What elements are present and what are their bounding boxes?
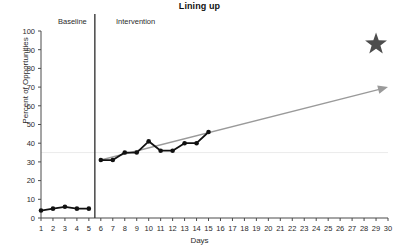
chart-svg: 0102030405060708090100 12345678910111213…	[0, 0, 399, 251]
svg-text:26: 26	[336, 224, 344, 233]
svg-text:3: 3	[63, 224, 67, 233]
data-series-group	[39, 130, 211, 213]
svg-text:0: 0	[31, 214, 35, 223]
svg-text:70: 70	[27, 83, 35, 92]
goal-star-icon	[365, 33, 387, 54]
svg-text:17: 17	[228, 224, 236, 233]
svg-text:50: 50	[27, 120, 35, 129]
y-axis-ticks: 0102030405060708090100	[22, 27, 41, 223]
svg-text:80: 80	[27, 64, 35, 73]
chart-container: Lining up Percent of Opportunities Days …	[0, 0, 399, 251]
svg-text:12: 12	[168, 224, 176, 233]
svg-text:100: 100	[22, 27, 35, 36]
svg-text:23: 23	[300, 224, 308, 233]
x-axis-ticks: 1234567891011121314151617181920212223242…	[39, 218, 392, 233]
svg-text:5: 5	[87, 224, 91, 233]
svg-text:18: 18	[240, 224, 248, 233]
svg-text:30: 30	[384, 224, 392, 233]
axes	[41, 31, 388, 218]
svg-text:15: 15	[204, 224, 212, 233]
svg-text:40: 40	[27, 139, 35, 148]
svg-text:20: 20	[27, 176, 35, 185]
svg-text:4: 4	[75, 224, 79, 233]
svg-text:13: 13	[180, 224, 188, 233]
svg-text:10: 10	[27, 195, 35, 204]
svg-text:2: 2	[51, 224, 55, 233]
svg-text:24: 24	[312, 224, 320, 233]
svg-text:1: 1	[39, 224, 43, 233]
svg-text:20: 20	[264, 224, 272, 233]
svg-text:30: 30	[27, 158, 35, 167]
svg-text:21: 21	[276, 224, 284, 233]
svg-text:6: 6	[99, 224, 103, 233]
svg-text:60: 60	[27, 102, 35, 111]
svg-text:90: 90	[27, 46, 35, 55]
svg-text:29: 29	[372, 224, 380, 233]
svg-text:8: 8	[123, 224, 127, 233]
svg-text:28: 28	[360, 224, 368, 233]
svg-text:10: 10	[145, 224, 153, 233]
svg-text:11: 11	[157, 224, 165, 233]
svg-text:7: 7	[111, 224, 115, 233]
svg-text:19: 19	[252, 224, 260, 233]
svg-text:9: 9	[135, 224, 139, 233]
projected-trend-arrow	[101, 85, 388, 160]
svg-text:16: 16	[216, 224, 224, 233]
svg-text:14: 14	[192, 224, 200, 233]
svg-text:22: 22	[288, 224, 296, 233]
svg-text:27: 27	[348, 224, 356, 233]
svg-text:25: 25	[324, 224, 332, 233]
